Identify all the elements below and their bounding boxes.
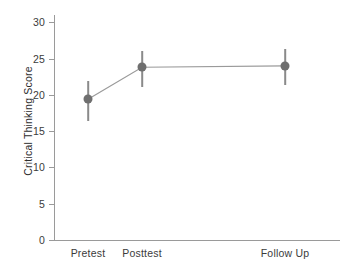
data-point-marker bbox=[84, 95, 93, 104]
y-tick-label: 0 bbox=[5, 235, 45, 246]
y-tick-label: 10 bbox=[5, 162, 45, 173]
y-tick-label: 5 bbox=[5, 199, 45, 210]
y-tick-label: 15 bbox=[5, 126, 45, 137]
x-category-label: Posttest bbox=[122, 247, 162, 259]
y-tick-mark bbox=[49, 131, 54, 132]
data-point-marker bbox=[138, 63, 147, 72]
y-tick-label: 25 bbox=[5, 54, 45, 65]
y-tick-mark bbox=[49, 95, 54, 96]
y-tick-label: 20 bbox=[5, 90, 45, 101]
y-tick-mark bbox=[49, 167, 54, 168]
y-axis-title: Critical Thinking Score bbox=[22, 41, 34, 201]
series-polyline bbox=[88, 66, 285, 99]
y-tick-label: 30 bbox=[5, 17, 45, 28]
data-point-marker bbox=[281, 61, 290, 70]
x-category-label: Pretest bbox=[71, 247, 106, 259]
y-axis-line bbox=[54, 15, 55, 241]
series-line bbox=[0, 0, 344, 268]
x-axis-line bbox=[54, 240, 340, 241]
y-tick-mark bbox=[49, 204, 54, 205]
y-tick-mark bbox=[49, 240, 54, 241]
y-tick-mark bbox=[49, 59, 54, 60]
x-category-label: Follow Up bbox=[261, 247, 309, 259]
y-tick-mark bbox=[49, 22, 54, 23]
chart-canvas: Critical Thinking Score 051015202530 Pre… bbox=[0, 0, 344, 268]
